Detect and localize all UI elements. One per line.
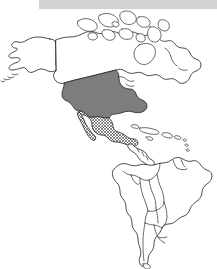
landmass-central-america xyxy=(128,144,155,167)
map-figure xyxy=(0,0,217,269)
americas-map xyxy=(0,0,217,269)
landmass-alaska xyxy=(9,37,57,72)
caribbean-islands xyxy=(131,125,189,152)
tierra-del-fuego xyxy=(143,264,150,269)
arctic-islands xyxy=(77,11,169,42)
aleutian-islands xyxy=(1,74,18,82)
